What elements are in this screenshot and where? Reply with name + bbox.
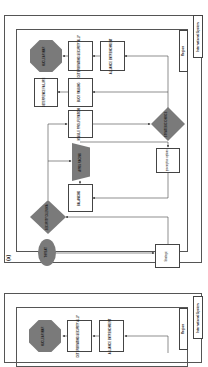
panel-tag-a: (a) — [4, 252, 13, 263]
node-preemptive-options: preemptive options — [156, 148, 180, 173]
node-balancing: BALANCING — [68, 184, 93, 212]
node-deteriorating-b: DETERIORATING SECURITY ALLY — [67, 320, 92, 352]
international-system-label-a: International System — [193, 15, 203, 58]
node-buck-passing: BUCK PASSING — [68, 78, 93, 107]
start-ellipse: THREAT — [38, 239, 56, 266]
region-label-b: Region — [179, 308, 188, 350]
node-alliance: ALLIANCE ENTRENCHMENT — [100, 41, 125, 71]
international-system-label-b: International System — [193, 296, 203, 339]
node-arms-racing: ARMS RACING — [72, 143, 90, 181]
region-label-a: Region — [179, 30, 188, 72]
node-strategic: Strategic — [155, 244, 180, 268]
node-deteriorating: DETERIORATING SECURITY ALLY — [68, 41, 93, 71]
node-alliance-b: ALLIANCE ENTRENCHMENT — [99, 320, 124, 352]
node-deterrence-failure: DETERRENCE FAILURE — [34, 78, 58, 107]
node-missile-proliferation: MISSILE PROLIFERATION — [68, 110, 93, 138]
